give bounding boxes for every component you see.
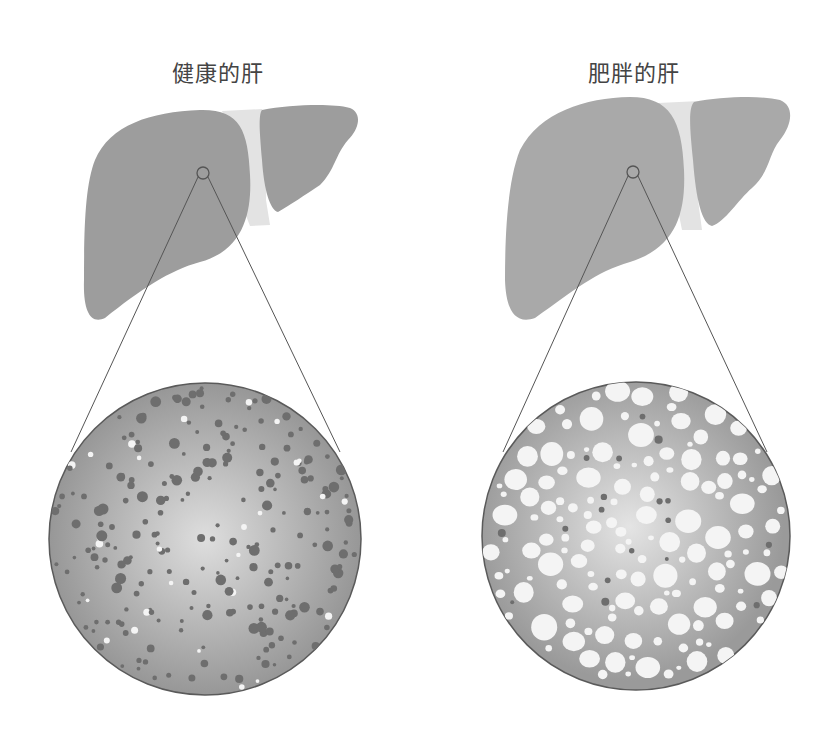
healthy-detail-circle	[49, 383, 361, 695]
fatty-liver-left-lobe	[505, 97, 684, 320]
fatty-liver-right-lobe	[690, 97, 790, 226]
healthy-liver-right-lobe	[260, 105, 358, 212]
liver-comparison-diagram	[0, 0, 834, 734]
healthy-liver-left-lobe	[84, 110, 250, 320]
fatty-detail-circle	[482, 381, 790, 690]
